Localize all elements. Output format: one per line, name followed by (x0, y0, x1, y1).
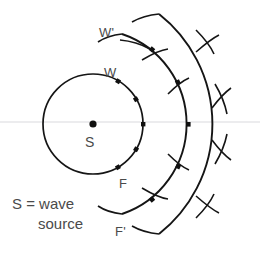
source-label-s: S (85, 135, 95, 149)
source-point-marker (89, 120, 96, 127)
wavelet-crossing-arc (196, 196, 219, 213)
wave-diagram-figure: W W' F F' S S = wave source (0, 0, 260, 258)
wavelet-crossing-arc (215, 134, 227, 164)
figure-caption: S = wave source (12, 194, 142, 235)
wavefront-label-w-prime: W' (99, 26, 114, 39)
wavefront-label-w: W (104, 66, 117, 79)
outer-arc-wavelet-group (196, 30, 231, 218)
middle-arc-wavelet-group (142, 46, 191, 202)
caption-line-2: source (12, 214, 142, 234)
caption-line-1: S = wave (12, 195, 74, 212)
middle-wavefront-arc (122, 34, 187, 214)
outer-arc-upper-tail (132, 14, 159, 22)
wavelet-crossing-arc (142, 49, 168, 60)
wavelet-crossing-arc (196, 35, 219, 52)
wavelet-crossing-arc (215, 84, 227, 114)
front-label-f: F (119, 177, 127, 190)
wavelet-dot (149, 196, 155, 202)
wavelet-dot (141, 122, 145, 126)
wavelet-dot (186, 122, 191, 127)
wavelet-crossing-arc (142, 188, 168, 199)
